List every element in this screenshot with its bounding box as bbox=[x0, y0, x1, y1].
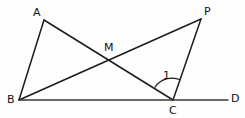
vertex-label-c: C bbox=[169, 105, 177, 116]
vertex-label-b: B bbox=[7, 94, 15, 105]
vertex-label-a: A bbox=[33, 7, 41, 18]
angle-label-1: 1 bbox=[163, 70, 170, 81]
vertex-label-m: M bbox=[104, 42, 114, 53]
segment-bp bbox=[19, 19, 201, 100]
segment-ab bbox=[19, 20, 44, 100]
vertex-label-d: D bbox=[231, 93, 239, 104]
vertex-label-p: P bbox=[204, 6, 211, 17]
geometry-figure: A B C D P M 1 bbox=[0, 0, 245, 118]
segment-pc bbox=[173, 19, 201, 100]
